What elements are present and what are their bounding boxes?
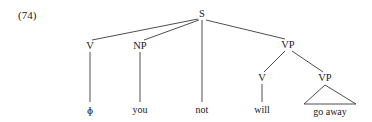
- node-vp-upper: VP: [281, 40, 294, 51]
- leaf-you: you: [133, 105, 148, 115]
- edge-VP1-VP2: [292, 51, 323, 72]
- node-v-aux: V: [258, 73, 266, 84]
- leaf-will: will: [254, 105, 270, 115]
- edge-S-V1: [92, 19, 198, 40]
- leaf-phi: ɸ: [87, 105, 93, 116]
- vp-triangle: [304, 85, 356, 104]
- leaf-not: not: [196, 105, 209, 115]
- node-vp-lower: VP: [318, 73, 331, 84]
- node-v-subject: V: [86, 41, 94, 52]
- node-np: NP: [133, 41, 146, 52]
- tree-lines: [0, 0, 372, 122]
- leaf-go-away: go away: [313, 107, 347, 117]
- node-s: S: [199, 9, 205, 20]
- syntax-tree-figure: (74) S V NP VP V VP ɸ you not will go aw…: [0, 0, 372, 122]
- edge-VP1-V2: [264, 51, 285, 72]
- edge-S-VP1: [206, 20, 285, 39]
- edge-S-NP: [144, 20, 199, 40]
- edge-group: [90, 19, 323, 102]
